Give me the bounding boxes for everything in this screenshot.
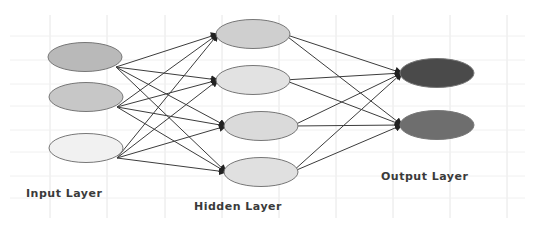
connection-arrow <box>284 34 402 73</box>
connection-arrow <box>292 73 402 172</box>
hidden-node <box>224 112 298 141</box>
connection-arrow <box>284 34 402 125</box>
hidden-layer-label: Hidden Layer <box>194 200 282 213</box>
input-node <box>49 83 123 112</box>
connection-arrow <box>284 80 402 125</box>
input-node <box>49 134 123 163</box>
hidden-node <box>216 66 290 95</box>
hidden-node <box>216 20 290 49</box>
output-layer-label: Output Layer <box>381 170 468 183</box>
connection-arrow <box>292 125 402 172</box>
connection-arrow <box>292 125 402 126</box>
output-node <box>400 59 474 88</box>
hidden-node <box>224 158 298 187</box>
input-layer-label: Input Layer <box>26 187 102 200</box>
neural-network-diagram: Input Layer Hidden Layer Output Layer <box>0 0 535 230</box>
connection-arrow <box>116 34 218 67</box>
connection-arrow <box>116 67 218 80</box>
connection-arrow <box>117 158 226 172</box>
nodes <box>48 20 474 187</box>
connection-arrow <box>292 73 402 126</box>
output-node <box>400 111 474 140</box>
input-node <box>48 43 122 72</box>
connection-arrow <box>116 67 226 126</box>
connection-arrow <box>117 126 226 158</box>
connections <box>116 34 402 172</box>
connection-arrow <box>117 80 218 158</box>
